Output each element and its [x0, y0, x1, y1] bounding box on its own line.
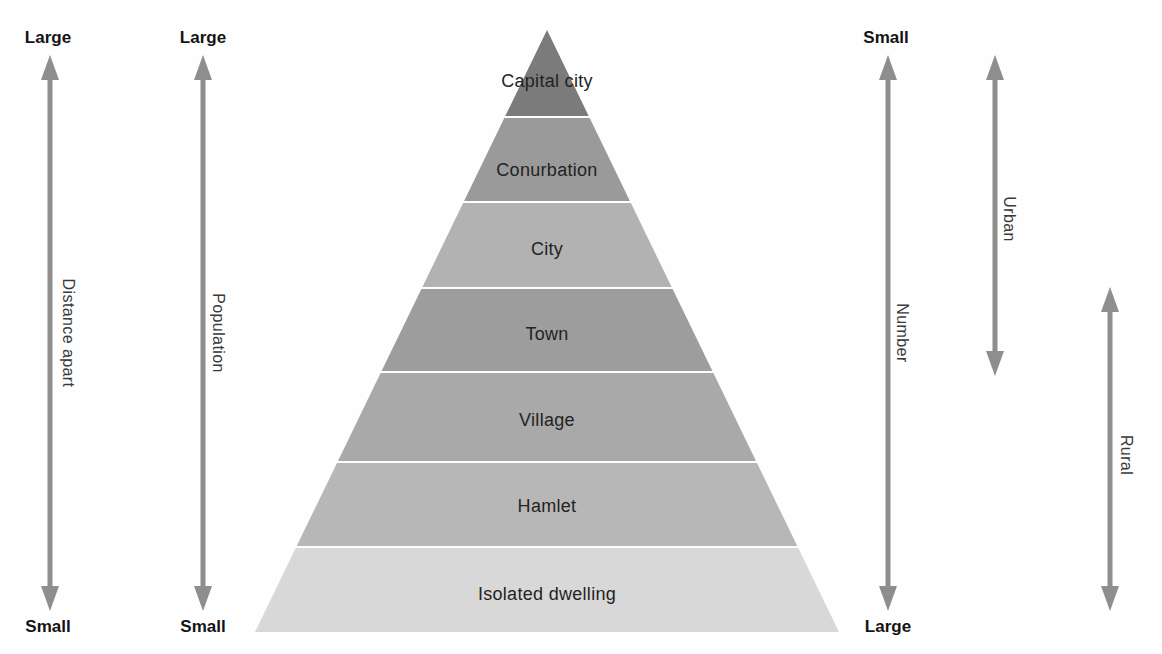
number-axis-label: Number — [893, 303, 911, 362]
population-top-label: Large — [180, 28, 226, 48]
pyramid-label-conurbation: Conurbation — [496, 160, 597, 181]
population-bottom-label: Small — [180, 617, 225, 637]
number-top-label: Small — [863, 28, 908, 48]
distance-apart-bottom-label: Small — [25, 617, 70, 637]
distance-apart-arrow — [41, 55, 59, 611]
pyramid-label-capital-city: Capital city — [501, 71, 593, 92]
diagram-graphics — [0, 0, 1162, 654]
pyramid-label-town: Town — [525, 324, 568, 345]
pyramid-label-isolated-dwelling: Isolated dwelling — [478, 584, 616, 605]
number-arrow-head-up — [879, 55, 897, 80]
urban-arrow-head-down — [986, 351, 1004, 376]
settlement-hierarchy-diagram: Capital city Conurbation City Town Villa… — [0, 0, 1162, 654]
population-arrow-head-up — [194, 55, 212, 80]
population-arrow-head-down — [194, 586, 212, 611]
distance-apart-top-label: Large — [25, 28, 71, 48]
pyramid-label-village: Village — [519, 410, 575, 431]
distance-apart-axis-label: Distance apart — [59, 279, 77, 388]
rural-arrow-head-up — [1101, 287, 1119, 312]
number-bottom-label: Large — [865, 617, 911, 637]
rural-axis-label: Rural — [1117, 435, 1135, 475]
number-arrow-head-down — [879, 586, 897, 611]
pyramid-label-city: City — [531, 239, 563, 260]
pyramid-label-hamlet: Hamlet — [518, 496, 577, 517]
population-axis-label: Population — [209, 293, 227, 373]
distance-apart-arrow-head-down — [41, 586, 59, 611]
urban-arrow-head-up — [986, 55, 1004, 80]
rural-arrow-head-down — [1101, 586, 1119, 611]
urban-axis-label: Urban — [1000, 196, 1018, 242]
distance-apart-arrow-head-up — [41, 55, 59, 80]
